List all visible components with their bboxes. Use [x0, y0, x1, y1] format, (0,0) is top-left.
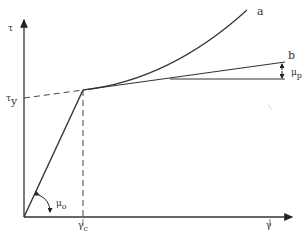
x-axis-label: γ: [266, 221, 271, 230]
curve-b-label: b: [288, 50, 295, 61]
curve-a: [83, 10, 247, 90]
mu-p-label: μp: [291, 68, 302, 80]
curve-a-label: a: [257, 6, 264, 17]
elastic-branch: [24, 90, 83, 217]
mu-o-label: μo: [56, 199, 67, 211]
tau-y-label: τy: [6, 92, 17, 107]
gamma-c-label: γc: [78, 221, 88, 233]
mu-o-arc-arrow: [39, 195, 50, 212]
y-axis-label: τ: [8, 24, 13, 33]
stress-strain-diagram: [0, 0, 306, 234]
line-b: [83, 62, 285, 90]
tau-y-dashed-line: [24, 90, 83, 98]
